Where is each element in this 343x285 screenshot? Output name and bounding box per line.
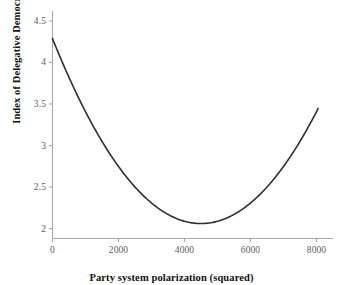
x-axis-tick-label: 8000 [307,245,326,255]
x-axis-title: Party system polarization (squared) [0,272,343,283]
y-axis-tick-label: 2 [6,224,46,234]
data-series-line [53,39,319,224]
x-axis-tick-label: 0 [50,245,55,255]
x-axis-tick-label: 2000 [109,245,128,255]
y-axis-title: Index of Delegative Democracy [11,0,22,168]
y-axis-tick-label: 2.5 [6,182,46,192]
plot-area [0,0,343,285]
x-axis-tick-label: 4000 [175,245,194,255]
chart-container: 22.533.544.5 02000400060008000 Index of … [0,0,343,285]
x-axis-tick-label: 6000 [241,245,260,255]
